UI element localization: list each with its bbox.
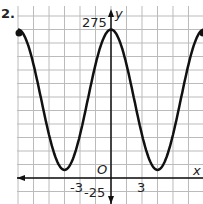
endpoint-left (16, 30, 23, 37)
origin-label: O (97, 162, 107, 177)
grid (17, 6, 203, 204)
y-axis (108, 9, 114, 204)
arrow-up-icon (108, 9, 114, 17)
x-axis-label: x (192, 163, 201, 178)
y-tick-label-max: 275 (82, 15, 107, 30)
chart: 2. 275 y x O -3 3 -25 (0, 0, 203, 204)
problem-number: 2. (1, 6, 15, 21)
y-axis-label: y (114, 6, 123, 21)
arrow-down-icon (108, 196, 114, 204)
x-tick-label-3: 3 (137, 180, 145, 195)
x-tick-label-neg3: -3 (70, 180, 83, 195)
x-axis (17, 175, 203, 181)
y-tick-label-min: -25 (84, 185, 105, 200)
